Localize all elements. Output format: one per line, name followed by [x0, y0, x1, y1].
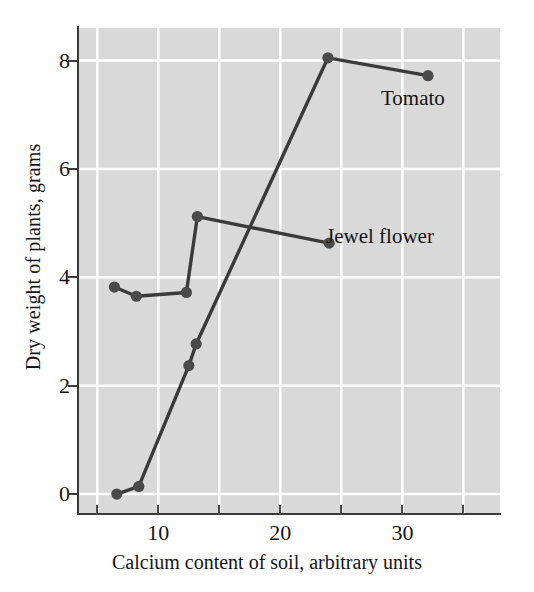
series-tomato [111, 52, 433, 499]
x-tick-label: 30 [372, 521, 432, 545]
y-tick-label: 6 [44, 158, 70, 180]
y-tick-mark [68, 385, 79, 387]
series-line [117, 58, 428, 494]
data-point [111, 488, 122, 499]
data-point [422, 70, 433, 81]
x-axis-title: Calcium content of soil, arbitrary units [0, 551, 534, 574]
data-point [191, 338, 202, 349]
x-tick-mark [218, 505, 220, 515]
y-tick-mark [68, 493, 79, 495]
y-tick-mark [68, 276, 79, 278]
y-tick-mark [68, 168, 79, 170]
x-tick-mark [401, 505, 403, 515]
data-point [131, 291, 142, 302]
y-tick-mark [68, 60, 79, 62]
x-tick-label: 10 [128, 521, 188, 545]
data-point [181, 287, 192, 298]
chart-figure: Dry weight of plants, grams 02468 102030… [0, 0, 534, 592]
series-annotation-tomato: Tomato [381, 86, 445, 111]
y-tick-label: 8 [44, 50, 70, 72]
data-point [183, 360, 194, 371]
x-tick-mark [462, 505, 464, 515]
data-point [322, 52, 333, 63]
x-axis-spine [77, 513, 501, 515]
x-tick-label-group: 102030 [0, 521, 534, 553]
y-tick-label: 4 [44, 266, 70, 288]
y-tick-label: 2 [44, 375, 70, 397]
series-annotation-jewel-flower: Jewel flower [326, 224, 434, 249]
y-axis-spine [77, 26, 79, 515]
data-point [133, 481, 144, 492]
x-tick-label: 20 [250, 521, 310, 545]
x-tick-mark [157, 505, 159, 515]
x-tick-mark [96, 505, 98, 515]
x-tick-mark [340, 505, 342, 515]
y-tick-label: 0 [44, 483, 70, 505]
y-tick-label-group: 02468 [44, 0, 70, 592]
x-tick-mark [279, 505, 281, 515]
data-point [192, 211, 203, 222]
data-point [109, 281, 120, 292]
